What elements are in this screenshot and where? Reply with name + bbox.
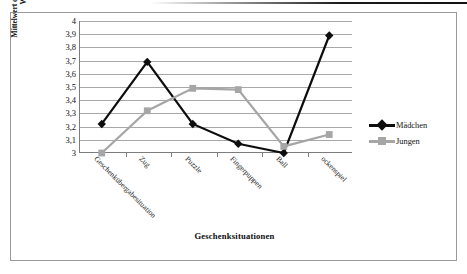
data-point-marker bbox=[234, 140, 242, 148]
y-axis-title-line2: Wohlbefindens* bbox=[19, 0, 28, 4]
y-axis-tick-label: 3,3 bbox=[65, 109, 76, 118]
chart-legend: MädchenJungen bbox=[369, 117, 453, 149]
y-axis-tick-label: 3,6 bbox=[65, 70, 76, 79]
y-axis-title: Mittelwert der Förderung kindlichen Wohl… bbox=[0, 0, 39, 45]
data-point-marker bbox=[235, 86, 242, 93]
scan-line-artifact bbox=[150, 2, 467, 4]
legend-marker-diamond-icon bbox=[376, 119, 387, 130]
legend-swatch-square-icon bbox=[369, 135, 395, 147]
y-axis-tick-label: 3 bbox=[72, 149, 76, 158]
y-axis-tick-label: 3,1 bbox=[65, 136, 76, 145]
x-axis-title: Geschenksituationen bbox=[11, 231, 458, 241]
y-axis-tick-label: 3,4 bbox=[65, 96, 76, 105]
series-line-mädchen bbox=[102, 36, 330, 153]
x-axis-tick-label: ockenspiel bbox=[320, 155, 348, 183]
x-axis-tick-label: Zug bbox=[138, 155, 152, 169]
data-point-marker bbox=[326, 131, 333, 138]
y-axis-tick-label: 3,7 bbox=[65, 56, 76, 65]
legend-swatch-diamond-icon bbox=[369, 119, 395, 131]
data-point-marker bbox=[189, 85, 196, 92]
y-axis-tick-labels: 43,93,83,73,63,53,43,33,23,13 bbox=[51, 21, 76, 153]
chart-figure-frame: Mittelwert der Förderung kindlichen Wohl… bbox=[10, 12, 457, 261]
y-axis-tick-label: 3,5 bbox=[65, 83, 76, 92]
x-axis-tick-label: Ball bbox=[274, 155, 288, 169]
y-axis-tick-label: 3,2 bbox=[65, 122, 76, 131]
data-point-marker bbox=[325, 31, 333, 39]
data-point-marker bbox=[280, 143, 287, 150]
y-axis-tick-label: 4 bbox=[72, 17, 76, 26]
y-axis-tick-label: 3,8 bbox=[65, 43, 76, 52]
x-axis-tick-label: Fingerpuppen bbox=[229, 155, 264, 190]
x-axis-tick-label: Puzzle bbox=[183, 155, 203, 175]
x-axis-tick-labels: GeschenkübergabesituationZugPuzzleFinger… bbox=[79, 155, 352, 225]
legend-item-jungen[interactable]: Jungen bbox=[369, 133, 453, 149]
data-series-layer bbox=[79, 21, 352, 153]
y-axis-tick-label: 3,9 bbox=[65, 30, 76, 39]
legend-label: Mädchen bbox=[395, 121, 427, 130]
legend-item-mädchen[interactable]: Mädchen bbox=[369, 117, 453, 133]
legend-label: Jungen bbox=[395, 137, 420, 146]
y-axis-title-line1: Mittelwert der Förderung kindlichen bbox=[10, 0, 19, 37]
data-point-marker bbox=[144, 107, 151, 114]
legend-marker-square-icon bbox=[378, 137, 386, 145]
